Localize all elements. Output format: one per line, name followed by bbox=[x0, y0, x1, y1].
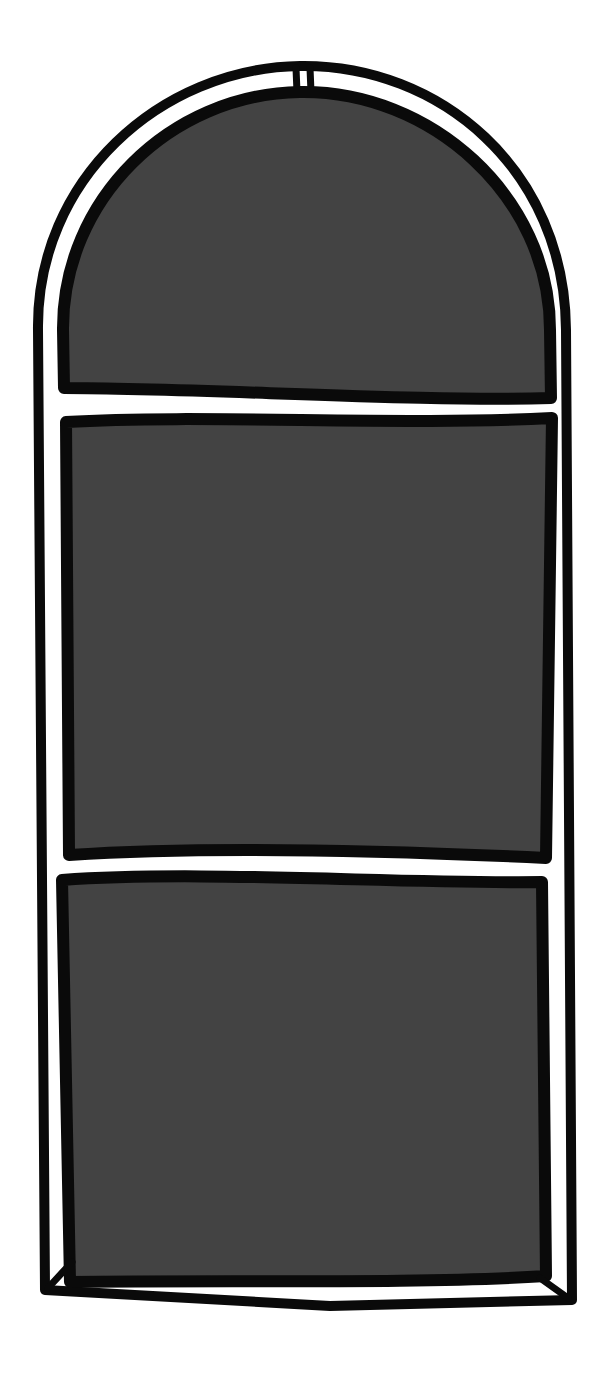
middle-pane bbox=[66, 418, 552, 858]
arched-window-illustration bbox=[0, 0, 594, 1397]
bottom-pane bbox=[62, 876, 546, 1282]
window-drawing bbox=[0, 0, 594, 1397]
